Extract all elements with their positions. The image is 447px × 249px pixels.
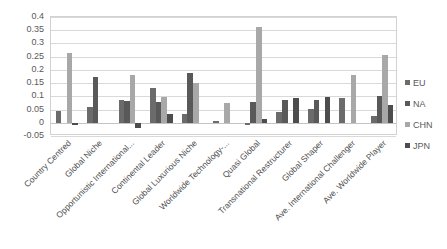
bar-slot bbox=[293, 17, 299, 134]
y-tick-label: 0.1 bbox=[31, 90, 44, 100]
y-tick-label: -0.05 bbox=[23, 130, 44, 140]
bar-group-inner bbox=[308, 17, 330, 134]
bar-group bbox=[114, 17, 146, 134]
legend-swatch-icon bbox=[405, 80, 410, 85]
y-tick-label: 0.15 bbox=[26, 77, 44, 87]
bar-jpn[interactable] bbox=[262, 119, 268, 122]
bar-jpn[interactable] bbox=[135, 123, 141, 128]
bar-group-inner bbox=[119, 17, 141, 134]
legend-label: JPN bbox=[413, 141, 430, 151]
bar-slot bbox=[388, 17, 394, 134]
y-tick-label: 0.3 bbox=[31, 37, 44, 47]
bar-group-inner bbox=[182, 17, 204, 134]
legend-swatch-icon bbox=[405, 122, 410, 127]
bar-jpn[interactable] bbox=[72, 123, 78, 126]
bar-group bbox=[366, 17, 398, 134]
bar-group-inner bbox=[339, 17, 361, 134]
bar-slot bbox=[72, 17, 78, 134]
bar-group bbox=[146, 17, 178, 134]
bar-slot bbox=[262, 17, 268, 134]
bar-group-inner bbox=[276, 17, 298, 134]
bar-jpn[interactable] bbox=[325, 97, 331, 122]
bar-group-inner bbox=[150, 17, 172, 134]
y-tick-label: 0.35 bbox=[26, 24, 44, 34]
legend-swatch-icon bbox=[405, 143, 410, 148]
bar-group bbox=[335, 17, 367, 134]
y-tick-label: 0.25 bbox=[26, 51, 44, 61]
legend-entry[interactable]: JPN bbox=[405, 135, 447, 156]
y-tick-label: 0.2 bbox=[31, 64, 44, 74]
bar-group bbox=[303, 17, 335, 134]
bar-chart: 0.40.350.30.250.20.150.10.050-0.05 Count… bbox=[0, 0, 447, 249]
bar-group-inner bbox=[245, 17, 267, 134]
legend-label: CHN bbox=[413, 120, 433, 130]
bar-group bbox=[209, 17, 241, 134]
bar-group-inner bbox=[213, 17, 235, 134]
bar-group bbox=[240, 17, 272, 134]
bar-slot bbox=[230, 17, 236, 134]
bar-group bbox=[51, 17, 83, 134]
bar-jpn[interactable] bbox=[388, 105, 394, 123]
y-tick-label: 0.4 bbox=[31, 11, 44, 21]
bar-group bbox=[83, 17, 115, 134]
bar-group-inner bbox=[371, 17, 393, 134]
bar-slot bbox=[104, 17, 110, 134]
bar-slot bbox=[135, 17, 141, 134]
bar-group bbox=[272, 17, 304, 134]
bar-slot bbox=[199, 17, 205, 134]
chart-legend: EUNACHNJPN bbox=[405, 72, 447, 156]
legend-entry[interactable]: CHN bbox=[405, 114, 447, 135]
legend-label: EU bbox=[413, 78, 426, 88]
y-tick-label: 0.05 bbox=[26, 104, 44, 114]
bar-slot bbox=[356, 17, 362, 134]
bar-jpn[interactable] bbox=[293, 98, 299, 122]
plot-area bbox=[50, 16, 397, 135]
bar-jpn[interactable] bbox=[167, 114, 173, 123]
legend-entry[interactable]: NA bbox=[405, 93, 447, 114]
legend-swatch-icon bbox=[405, 101, 410, 106]
bar-group bbox=[177, 17, 209, 134]
legend-entry[interactable]: EU bbox=[405, 72, 447, 93]
bar-slot bbox=[167, 17, 173, 134]
y-tick-label: 0 bbox=[39, 117, 44, 127]
legend-label: NA bbox=[413, 99, 426, 109]
bar-group-inner bbox=[87, 17, 109, 134]
bar-group-inner bbox=[56, 17, 78, 134]
bars-layer bbox=[51, 17, 396, 134]
bar-slot bbox=[325, 17, 331, 134]
